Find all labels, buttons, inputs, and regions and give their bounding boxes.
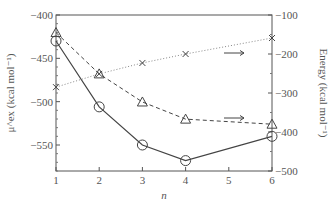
x-axis-title: n [161,189,167,201]
series-line-cross [56,38,272,87]
left-tick-label: −550 [30,139,53,151]
plot-frame [56,15,272,171]
right-tick-label: −200 [275,48,298,60]
x-tick-label: 4 [183,174,189,186]
cross-marker [139,60,145,66]
x-tick-label: 3 [140,174,146,186]
right-tick-label: −300 [275,87,298,99]
dual-axis-line-chart: −400−450−500−550 −100−200−300−400−500 12… [0,0,334,205]
x-tick-label: 1 [53,174,59,186]
data-series [51,28,277,166]
right-tick-label: −400 [275,126,298,138]
right-y-axis-title: Energy (kcal mol⁻¹) [317,49,330,138]
series-line-triangle [56,33,272,125]
cross-marker [96,71,102,77]
right-tick-label: −100 [275,9,298,21]
annotations [224,51,244,121]
right-tick-label: −500 [275,165,298,177]
left-tick-label: −400 [30,9,53,21]
x-tick-label: 2 [96,174,102,186]
x-axis: 123456 [53,167,275,186]
right-y-axis: −100−200−300−400−500 [268,9,298,177]
left-tick-label: −500 [30,96,53,108]
left-tick-label: −450 [30,52,53,64]
left-y-axis-title: μ^ex (kcal mol⁻¹) [4,53,17,132]
x-tick-label: 5 [226,174,232,186]
plot-border [56,15,272,171]
triangle-marker [137,97,147,106]
x-tick-label: 6 [269,174,275,186]
